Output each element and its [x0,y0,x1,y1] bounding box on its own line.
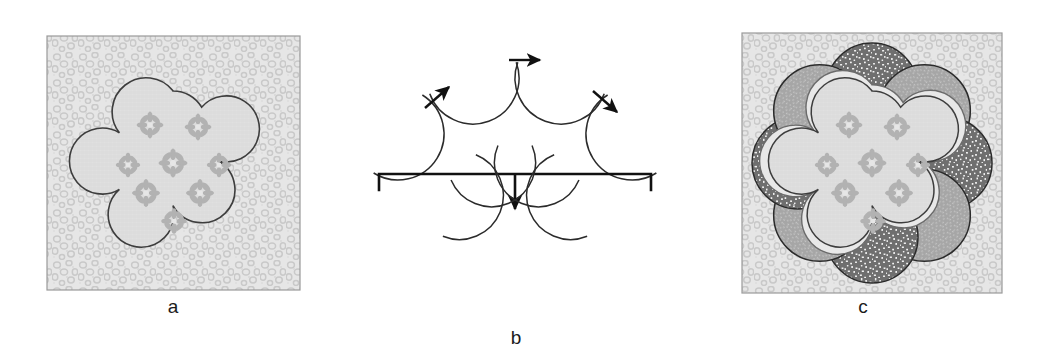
crescent-subunit [374,95,462,197]
arrow-up-right-icon [425,87,449,108]
panel-label-a: a [143,296,203,318]
panel-c [742,33,1002,293]
panel-label-c: c [833,296,893,318]
panel-a [47,36,300,290]
crescent-subunit [569,95,657,197]
assembled-arc [443,146,587,253]
arrow-down-right-icon [593,91,617,112]
crescent-subunit [502,62,604,137]
panel-b [374,60,657,253]
panel-label-b: b [486,327,546,349]
assembly-figure: a b c [0,0,1040,364]
crescent-subunit [430,62,532,137]
